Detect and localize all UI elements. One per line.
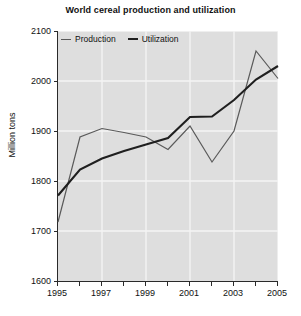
chart-container: World cereal production and utilization … (0, 0, 301, 316)
x-tick-mark (57, 282, 58, 286)
y-tick-label: 1700 (17, 226, 51, 236)
x-tick-mark (145, 282, 146, 286)
y-axis-title: Million tons (7, 90, 17, 180)
series-line-production (58, 51, 278, 222)
y-tick-label: 1600 (17, 276, 51, 286)
x-tick-label: 1999 (128, 288, 162, 298)
x-tick-mark (255, 282, 256, 286)
x-tick-label: 2001 (172, 288, 206, 298)
plot-area: ProductionUtilization (57, 31, 278, 282)
legend-label: Utilization (142, 34, 179, 44)
series-line-utilization (58, 66, 278, 196)
legend-swatch-production-icon (61, 39, 71, 40)
series-lines (58, 31, 278, 281)
y-tick-label: 1800 (17, 176, 51, 186)
y-tick-label: 2100 (17, 26, 51, 36)
x-tick-label: 1995 (40, 288, 74, 298)
y-tick-label: 1900 (17, 126, 51, 136)
x-tick-mark (101, 282, 102, 286)
legend-item-utilization[interactable]: Utilization (128, 34, 179, 44)
x-tick-mark (277, 282, 278, 286)
x-tick-mark (189, 282, 190, 286)
legend-label: Production (75, 34, 116, 44)
y-tick-label: 2000 (17, 76, 51, 86)
legend-item-production[interactable]: Production (61, 34, 116, 44)
x-tick-mark (123, 282, 124, 286)
x-tick-label: 1997 (84, 288, 118, 298)
x-tick-mark (167, 282, 168, 286)
legend-swatch-utilization-icon (128, 38, 138, 40)
x-tick-label: 2003 (216, 288, 250, 298)
chart-legend: ProductionUtilization (61, 34, 179, 44)
x-tick-mark (233, 282, 234, 286)
x-tick-mark (79, 282, 80, 286)
x-tick-mark (211, 282, 212, 286)
chart-title: World cereal production and utilization (0, 5, 301, 15)
x-tick-label: 2005 (260, 288, 294, 298)
